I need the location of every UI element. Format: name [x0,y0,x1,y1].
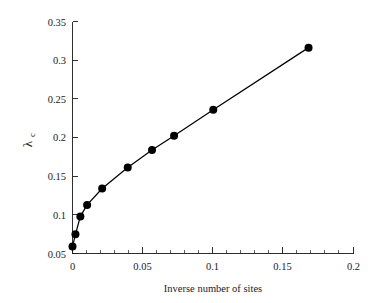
data-point [124,164,132,172]
x-ticklabel: 0.15 [273,261,291,272]
x-ticklabel: 0.2 [347,261,360,272]
data-point [170,132,178,140]
x-ticklabel: 0.05 [133,261,151,272]
data-point [209,106,217,114]
y-ticklabel: 0.15 [48,171,66,182]
y-ticklabel: 0.1 [53,210,66,221]
data-point [83,201,91,209]
y-ticklabel: 0.35 [48,17,66,28]
data-point [69,243,77,251]
y-ticklabel: 0.2 [53,132,66,143]
data-point [71,230,79,238]
x-ticklabel: 0.1 [206,261,219,272]
y-ticklabel: 0.3 [53,55,66,66]
x-axis-title: Inverse number of sites [164,283,262,294]
data-point [76,212,84,220]
data-point [148,146,156,154]
y-axis-title-lambda: λ [20,140,35,147]
data-point [98,185,106,193]
y-axis-title-subscript: c [27,133,37,137]
y-ticklabel: 0.25 [48,94,66,105]
scatter-line-plot: 0.35 0.3 0.25 0.2 0.15 0.1 0.05 [0,0,380,303]
y-ticklabel: 0.05 [48,249,66,260]
x-ticklabel: 0 [70,261,75,272]
data-point [305,44,313,52]
chart-figure: 0.35 0.3 0.25 0.2 0.15 0.1 0.05 [0,0,380,303]
